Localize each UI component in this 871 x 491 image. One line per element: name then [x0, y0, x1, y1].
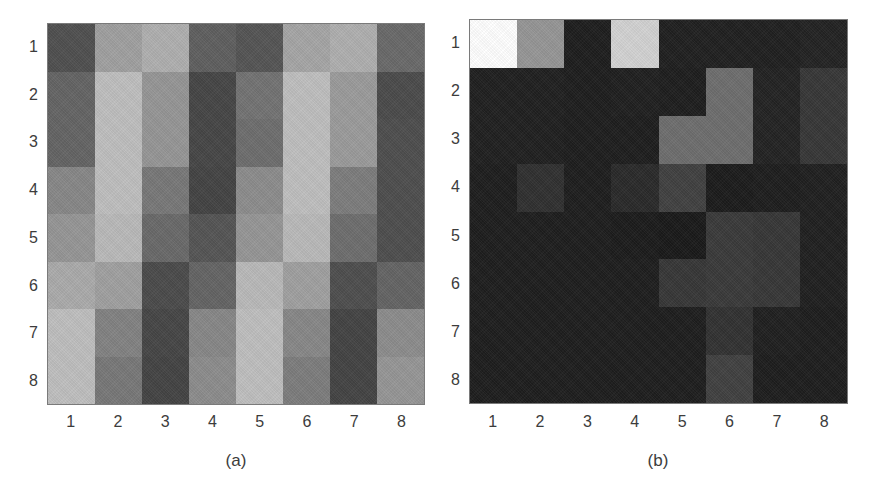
heatmap-cell [564, 68, 611, 116]
heatmap-cell [564, 355, 611, 403]
heatmap-cell [800, 355, 847, 403]
heatmap-cell [753, 116, 800, 164]
heatmap-cell [753, 212, 800, 260]
heatmap-cell [517, 20, 564, 68]
y-tick-label: 1 [444, 35, 460, 51]
heatmap-cell [517, 212, 564, 260]
heatmap-cell [564, 20, 611, 68]
heatmap-cell [517, 164, 564, 212]
heatmap-b [469, 19, 848, 404]
heatmap-cell [470, 259, 517, 307]
heatmap-cell [564, 212, 611, 260]
heatmap-cell [800, 307, 847, 355]
heatmap-cell [470, 164, 517, 212]
heatmap-cell [753, 259, 800, 307]
heatmap-cell [800, 20, 847, 68]
heatmap-cell [706, 307, 753, 355]
heatmap-cell [659, 164, 706, 212]
y-tick-label: 5 [444, 228, 460, 244]
y-tick-label: 2 [444, 83, 460, 99]
heatmap-cell [753, 68, 800, 116]
y-tick-label: 7 [444, 324, 460, 340]
heatmap-cell [706, 20, 753, 68]
heatmap-cell [800, 116, 847, 164]
heatmap-cell [800, 259, 847, 307]
heatmap-cell [564, 259, 611, 307]
heatmap-cell [611, 68, 658, 116]
heatmap-cell [706, 259, 753, 307]
heatmap-cell [611, 355, 658, 403]
x-tick-label: 1 [483, 414, 503, 430]
y-tick-label: 3 [444, 131, 460, 147]
heatmap-cell [800, 212, 847, 260]
heatmap-cell [611, 164, 658, 212]
x-tick-label: 6 [720, 414, 740, 430]
heatmap-cell [706, 212, 753, 260]
heatmap-cell [659, 307, 706, 355]
heatmap-cell [470, 355, 517, 403]
heatmap-cell [470, 116, 517, 164]
panel-b: 12345678 12345678 (b) [0, 0, 871, 491]
heatmap-cell [659, 116, 706, 164]
heatmap-cell [611, 212, 658, 260]
x-tick-label: 4 [625, 414, 645, 430]
heatmap-cell [706, 68, 753, 116]
heatmap-cell [659, 20, 706, 68]
heatmap-cell [706, 355, 753, 403]
heatmap-cell [517, 355, 564, 403]
heatmap-cell [611, 20, 658, 68]
y-tick-label: 6 [444, 276, 460, 292]
heatmap-cell [800, 164, 847, 212]
heatmap-cell [470, 212, 517, 260]
heatmap-cell [564, 307, 611, 355]
x-tick-label: 7 [767, 414, 787, 430]
heatmap-cell [470, 307, 517, 355]
heatmap-cell [564, 164, 611, 212]
heatmap-cell [564, 116, 611, 164]
x-tick-label: 2 [530, 414, 550, 430]
y-tick-label: 4 [444, 179, 460, 195]
heatmap-cell [753, 307, 800, 355]
heatmap-cell [706, 164, 753, 212]
y-tick-label: 8 [444, 372, 460, 388]
heatmap-cell [517, 68, 564, 116]
heatmap-cell [753, 164, 800, 212]
heatmap-cell [753, 355, 800, 403]
heatmap-cell [470, 20, 517, 68]
x-tick-label: 3 [577, 414, 597, 430]
heatmap-cell [517, 307, 564, 355]
heatmap-cell [611, 259, 658, 307]
heatmap-cell [659, 355, 706, 403]
heatmap-cell [611, 307, 658, 355]
heatmap-cell [659, 212, 706, 260]
heatmap-cell [753, 20, 800, 68]
heatmap-cell [800, 68, 847, 116]
x-tick-label: 8 [814, 414, 834, 430]
heatmap-cell [659, 259, 706, 307]
heatmap-cell [706, 116, 753, 164]
x-tick-label: 5 [672, 414, 692, 430]
heatmap-cell [517, 259, 564, 307]
heatmap-cell [659, 68, 706, 116]
heatmap-cell [517, 116, 564, 164]
heatmap-cell [611, 116, 658, 164]
heatmap-cell [470, 68, 517, 116]
caption-b: (b) [628, 451, 688, 471]
